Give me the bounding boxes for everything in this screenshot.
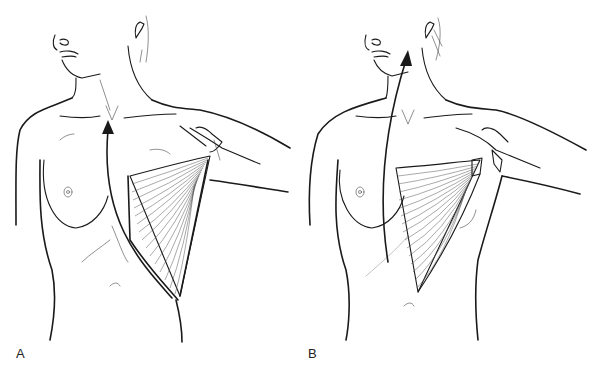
muscle-fibers-a (132, 158, 208, 294)
panel-b: B (296, 0, 592, 370)
muscle-fibers-b (398, 164, 478, 288)
panel-label-b: B (308, 346, 317, 361)
anatomical-illustration-b (296, 0, 592, 370)
anatomical-illustration-a (0, 0, 296, 370)
panel-a: A (0, 0, 296, 370)
panel-label-a: A (16, 346, 25, 361)
